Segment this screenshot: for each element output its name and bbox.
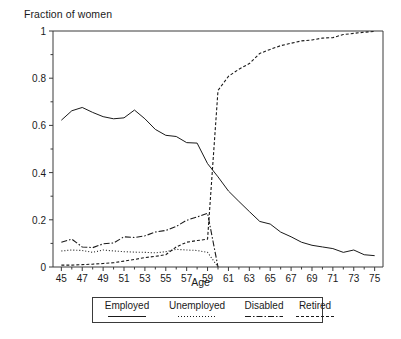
y-tick-label: 0.4 — [10, 167, 46, 178]
legend-line-sample-dotted — [177, 314, 217, 319]
legend-label: Disabled — [235, 300, 293, 312]
y-tick-label: 0.6 — [10, 120, 46, 131]
legend-label: Employed — [95, 300, 159, 312]
series-line-unemployed — [61, 249, 218, 267]
legend-line-sample-dashdot — [244, 314, 284, 319]
legend-item-disabled[interactable]: Disabled — [235, 300, 293, 319]
y-tick-label: 0.8 — [10, 73, 46, 84]
legend-line-sample-dashed — [295, 314, 335, 319]
plot-canvas — [0, 0, 401, 339]
y-tick-label: 1 — [10, 26, 46, 37]
y-tick-label: 0 — [10, 262, 46, 273]
x-axis-title: Age — [0, 276, 401, 288]
data-series-layer — [61, 31, 374, 267]
legend-label: Unemployed — [157, 300, 237, 312]
series-line-disabled — [61, 213, 218, 267]
legend-item-retired[interactable]: Retired — [289, 300, 341, 319]
chart-figure: Fraction of women 00.20.40.60.81 4547495… — [0, 0, 401, 339]
legend-item-employed[interactable]: Employed — [95, 300, 159, 319]
legend-label: Retired — [289, 300, 341, 312]
chart-legend: EmployedUnemployedDisabledRetired — [92, 297, 323, 323]
legend-item-unemployed[interactable]: Unemployed — [157, 300, 237, 319]
axis-lines — [53, 31, 383, 267]
series-line-employed — [61, 107, 374, 255]
y-tick-label: 0.2 — [10, 214, 46, 225]
x-axis-ticks — [61, 267, 374, 271]
series-line-retired — [61, 31, 374, 265]
legend-line-sample-solid — [107, 314, 147, 319]
y-axis-title: Fraction of women — [24, 8, 112, 20]
y-axis-ticks — [49, 31, 53, 267]
